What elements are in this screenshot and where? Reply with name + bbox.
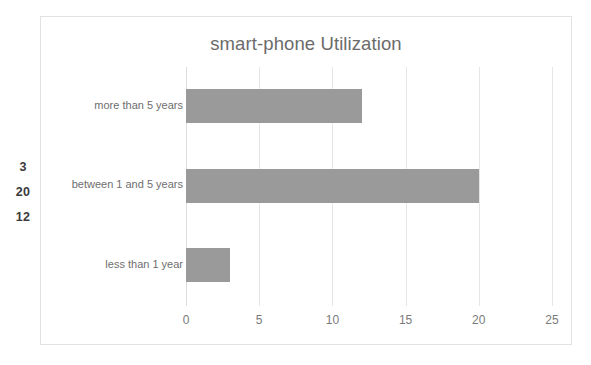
bar-between-1-and-5-years[interactable] (186, 169, 479, 203)
gridline (552, 67, 553, 306)
side-value-column: 3 20 12 (8, 155, 38, 230)
chart-frame: smart-phone Utilization more than 5 year… (40, 16, 572, 345)
x-tick-label: 10 (326, 313, 339, 327)
x-tick-label: 15 (399, 313, 412, 327)
gridline (479, 67, 480, 306)
category-axis-labels: more than 5 years between 1 and 5 years … (46, 67, 183, 306)
x-tick-label: 20 (472, 313, 485, 327)
side-value-item: 3 (8, 155, 38, 180)
side-value-item: 20 (8, 180, 38, 205)
category-label-more-than-5-years: more than 5 years (53, 99, 183, 111)
x-tick-label: 25 (545, 313, 558, 327)
bar-more-than-5-years[interactable] (186, 89, 362, 123)
bar-less-than-1-year[interactable] (186, 248, 230, 282)
side-value-item: 12 (8, 205, 38, 230)
category-label-between-1-and-5-years: between 1 and 5 years (53, 178, 183, 190)
value-axis-labels: 0510152025 (186, 313, 552, 337)
x-tick-label: 5 (256, 313, 263, 327)
x-tick-label: 0 (183, 313, 190, 327)
chart-title: smart-phone Utilization (41, 33, 571, 55)
category-label-less-than-1-year: less than 1 year (53, 258, 183, 270)
plot-area (186, 67, 552, 306)
